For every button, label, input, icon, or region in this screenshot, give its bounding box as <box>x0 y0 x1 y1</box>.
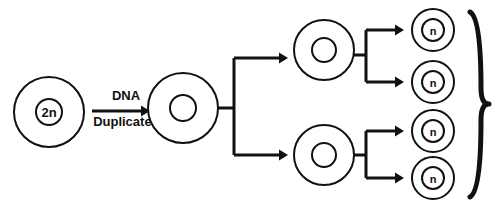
daughter-cell-bottom <box>294 125 354 185</box>
gamete-cell-4-label: n <box>430 173 437 185</box>
second-division-arrow-2 <box>380 76 404 87</box>
duplicated-cell <box>148 73 218 143</box>
second-split-top-bracket <box>354 30 380 82</box>
gamete-cell-2-label: n <box>430 77 437 89</box>
first-division-arrow-top <box>262 52 288 63</box>
second-division-head-3 <box>395 125 404 136</box>
first-split-bracket <box>218 58 262 155</box>
diagram-canvas: 2n DNA Duplicates <box>0 0 496 207</box>
second-division-head-2 <box>395 76 404 87</box>
gamete-cell-3: n <box>412 110 454 152</box>
first-division-arrow-bottom <box>262 149 288 160</box>
gamete-cell-4: n <box>412 157 454 199</box>
first-division-connector <box>218 58 262 155</box>
second-division-head-1 <box>395 24 404 35</box>
daughter-cell-bottom-nucleus <box>312 143 336 167</box>
gamete-cell-1: n <box>412 9 454 51</box>
meiosis-diagram: 2n DNA Duplicates <box>0 0 496 207</box>
second-division-arrow-1 <box>380 24 404 35</box>
second-split-bottom-bracket <box>354 131 380 178</box>
duplicated-cell-nucleus <box>170 95 196 121</box>
first-division-bottom-head <box>279 149 288 160</box>
gamete-cell-3-label: n <box>430 126 437 138</box>
grouping-brace-icon <box>470 12 489 197</box>
second-division-arrow-4 <box>380 172 404 183</box>
gamete-cell-2: n <box>412 61 454 103</box>
dna-label-line1: DNA <box>112 88 141 103</box>
parent-cell-label: 2n <box>41 105 56 120</box>
daughter-cell-top-nucleus <box>312 38 336 62</box>
second-division-head-4 <box>395 172 404 183</box>
parent-cell: 2n <box>14 77 84 147</box>
first-division-top-head <box>279 52 288 63</box>
second-division-arrow-3 <box>380 125 404 136</box>
daughter-cell-top <box>294 20 354 80</box>
gamete-cell-1-label: n <box>430 25 437 37</box>
